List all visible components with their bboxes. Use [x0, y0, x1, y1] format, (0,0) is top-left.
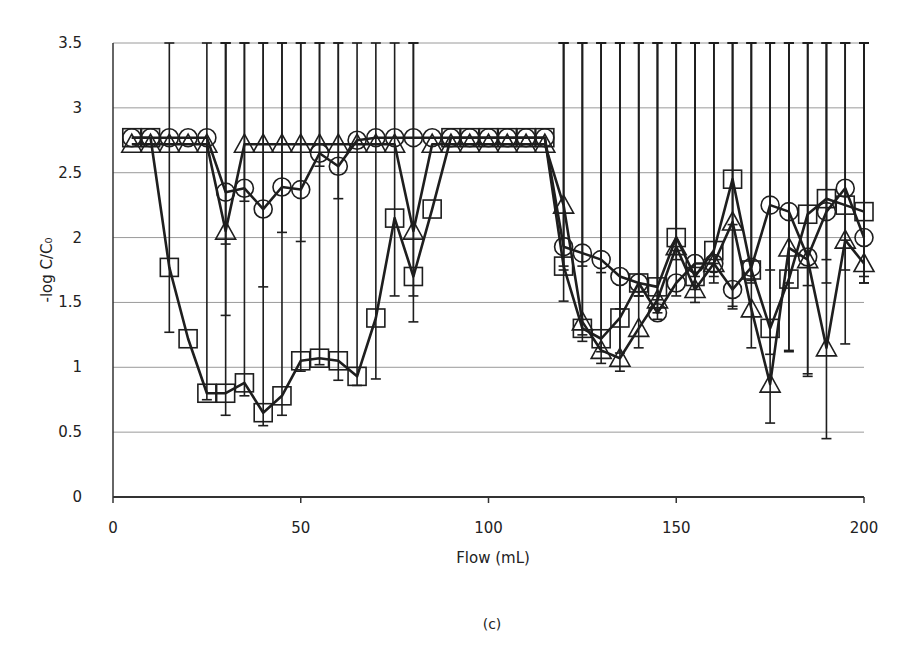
- x-tick-label: 100: [474, 519, 503, 537]
- y-tick-label: 3.5: [58, 34, 82, 52]
- series-triangle: [122, 43, 874, 439]
- x-tick-label: 150: [662, 519, 691, 537]
- series-line: [132, 138, 864, 313]
- y-tick-label: 2: [72, 229, 82, 247]
- x-tick-label: 0: [108, 519, 118, 537]
- y-axis-label: -log C/C₀: [38, 237, 56, 302]
- x-tick-label: 200: [850, 519, 879, 537]
- x-axis-label: Flow (mL): [456, 549, 530, 567]
- y-tick-label: 2.5: [58, 164, 82, 182]
- data-series: [122, 43, 874, 439]
- y-tick-label: 1: [72, 358, 82, 376]
- x-tick-label: 50: [291, 519, 310, 537]
- y-tick-label: 0: [72, 488, 82, 506]
- y-tick-label: 1.5: [58, 293, 82, 311]
- y-tick-label: 0.5: [58, 423, 82, 441]
- y-tick-label: 3: [72, 99, 82, 117]
- figure-caption: (c): [483, 616, 502, 632]
- chart: 00.511.522.533.5050100150200 Flow (mL) -…: [0, 0, 918, 658]
